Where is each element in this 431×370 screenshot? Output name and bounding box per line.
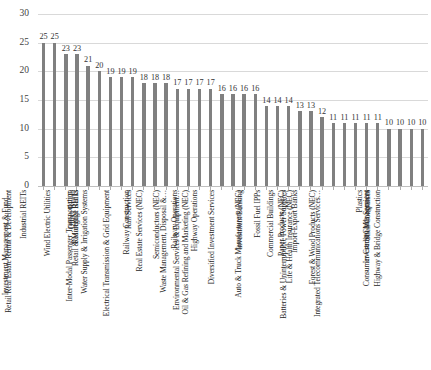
- bar[interactable]: 18: [153, 83, 156, 186]
- bar-value-label: 21: [84, 56, 92, 64]
- x-axis-tick-label: Electrical Transmission & Grid Equipment: [103, 190, 111, 316]
- bar-slot: 19: [127, 14, 138, 186]
- bar-slot: 11: [361, 14, 372, 186]
- bar-slot: 14: [272, 14, 283, 186]
- x-label-slot: Forest & Wood Products (NEC): [350, 190, 361, 368]
- bar[interactable]: 23: [75, 54, 78, 186]
- bar-value-label: 11: [374, 114, 382, 122]
- bar[interactable]: 11: [354, 123, 357, 186]
- bar[interactable]: 13: [298, 111, 301, 186]
- x-axis-tick-label: Real Estate Services (NEC): [136, 190, 144, 272]
- bar[interactable]: 17: [187, 89, 190, 186]
- bar-slot: 11: [350, 14, 361, 186]
- bar[interactable]: 16: [242, 94, 245, 186]
- bar[interactable]: 20: [98, 71, 101, 186]
- x-axis-tick-label: Consumer Credit Cards Services: [363, 190, 371, 286]
- bar-value-label: 11: [352, 114, 360, 122]
- x-label-slot: Consumer Credit Cards Services: [406, 190, 417, 368]
- x-axis-tick-label: Railway Construction: [123, 190, 131, 254]
- bar[interactable]: 25: [42, 43, 45, 186]
- bar[interactable]: 16: [220, 94, 223, 186]
- bar-value-label: 19: [129, 68, 137, 76]
- bar-value-label: 11: [329, 114, 337, 122]
- x-axis-tick-label: Auto & Truck Manufacturers (NEC): [235, 190, 243, 298]
- bar[interactable]: 10: [421, 129, 424, 186]
- bar[interactable]: 21: [86, 66, 89, 186]
- bar-slot: 10: [406, 14, 417, 186]
- bar-value-label: 10: [407, 119, 415, 127]
- bar-slot: 21: [83, 14, 94, 186]
- bar-slot: 17: [172, 14, 183, 186]
- bar-slot: 18: [149, 14, 160, 186]
- bar[interactable]: 11: [365, 123, 368, 186]
- bar-value-label: 25: [39, 33, 47, 41]
- bar[interactable]: 17: [176, 89, 179, 186]
- bar[interactable]: 19: [109, 77, 112, 186]
- bar-slot: 18: [161, 14, 172, 186]
- bar-value-label: 25: [51, 33, 59, 41]
- bar-value-label: 17: [207, 79, 215, 87]
- bar-slot: 20: [94, 14, 105, 186]
- bar-value-label: 19: [106, 68, 114, 76]
- bar-value-label: 14: [262, 97, 270, 105]
- bar[interactable]: 18: [164, 83, 167, 186]
- bar-value-label: 18: [151, 74, 159, 82]
- bar[interactable]: 10: [398, 129, 401, 186]
- bar-slot: 14: [261, 14, 272, 186]
- bar[interactable]: 11: [376, 123, 379, 186]
- bar-value-label: 23: [73, 45, 81, 53]
- bar-slot: 13: [294, 14, 305, 186]
- y-axis-tick-label: 20: [20, 67, 30, 77]
- x-axis-tick-label: Waste Management, Disposal &…: [159, 190, 167, 293]
- bar[interactable]: 12: [320, 117, 323, 186]
- bar[interactable]: 14: [276, 106, 279, 186]
- x-label-slot: Highway Operations: [216, 190, 227, 368]
- bar-chart: 051015202530 252523232120191919181818171…: [0, 0, 431, 370]
- bar[interactable]: 18: [142, 83, 145, 186]
- bar-value-label: 10: [385, 119, 393, 127]
- bar-slot: 17: [183, 14, 194, 186]
- bar-value-label: 18: [140, 74, 148, 82]
- bar[interactable]: 10: [387, 129, 390, 186]
- y-axis-tick-label: 25: [20, 38, 30, 48]
- bar-value-label: 17: [184, 79, 192, 87]
- bar-value-label: 13: [296, 102, 304, 110]
- x-axis-tick-label: Wind Electric Utilities: [44, 190, 52, 256]
- bar[interactable]: 11: [332, 123, 335, 186]
- x-axis-tick-label: Industrial REITs: [19, 190, 27, 239]
- bar-value-label: 16: [240, 85, 248, 93]
- bar[interactable]: 10: [410, 129, 413, 186]
- bar-slot: 10: [395, 14, 406, 186]
- bar[interactable]: 25: [53, 43, 56, 186]
- y-axis-tick-label: 15: [20, 95, 30, 105]
- bar-value-label: 12: [318, 108, 326, 116]
- x-axis-tick-label: Commercial Buildings: [266, 190, 274, 257]
- bar[interactable]: 17: [198, 89, 201, 186]
- bar-slot: 13: [305, 14, 316, 186]
- bar[interactable]: 19: [120, 77, 123, 186]
- bar-slot: 11: [328, 14, 339, 186]
- bar-value-label: 17: [195, 79, 203, 87]
- bar-slot: 16: [216, 14, 227, 186]
- x-axis-tick-label: Integrated Telecommunications Services…: [314, 190, 322, 317]
- bar-value-label: 10: [418, 119, 426, 127]
- y-axis: 051015202530: [0, 14, 34, 186]
- bar[interactable]: 14: [287, 106, 290, 186]
- bar-value-label: 16: [229, 85, 237, 93]
- bar[interactable]: 13: [309, 111, 312, 186]
- bar[interactable]: 23: [64, 54, 67, 186]
- bar[interactable]: 16: [231, 94, 234, 186]
- bar[interactable]: 19: [131, 77, 134, 186]
- bar-slot: 17: [194, 14, 205, 186]
- y-axis-tick-label: 30: [20, 9, 30, 19]
- bar-slot: 12: [317, 14, 328, 186]
- bar-value-label: 23: [62, 45, 70, 53]
- bar[interactable]: 16: [254, 94, 257, 186]
- bar[interactable]: 14: [265, 106, 268, 186]
- x-axis-tick-label: Highway & Bridge Construction: [374, 190, 382, 286]
- bar[interactable]: 11: [343, 123, 346, 186]
- x-label-slot: Investment Management: [395, 190, 406, 368]
- bar[interactable]: 17: [209, 89, 212, 186]
- bar-slot: 16: [239, 14, 250, 186]
- bar-slot: 16: [227, 14, 238, 186]
